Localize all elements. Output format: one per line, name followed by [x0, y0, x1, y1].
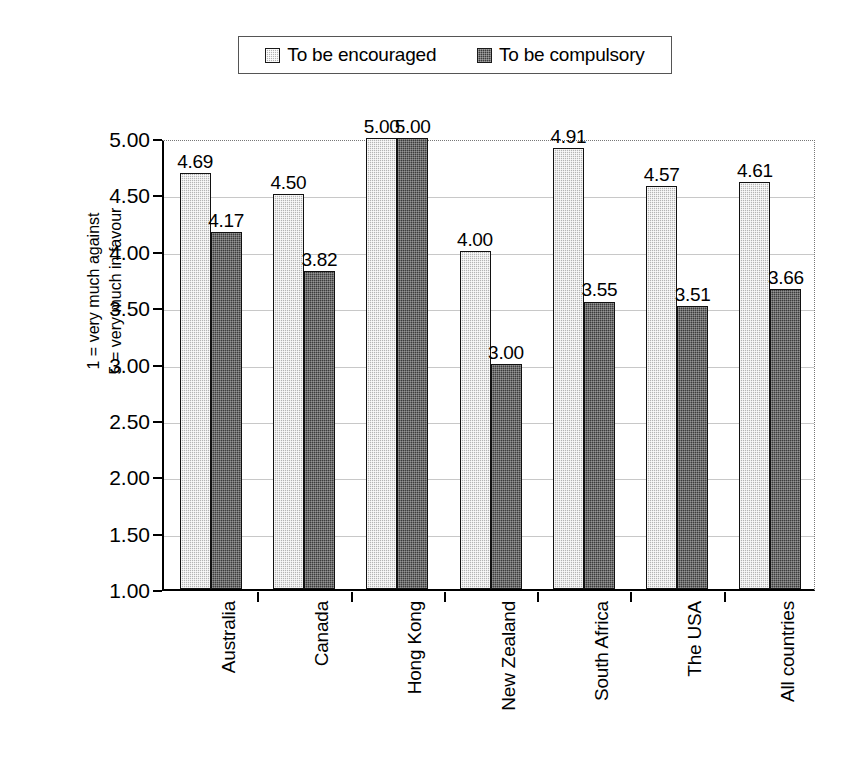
y-axis-tick-mark — [153, 252, 162, 254]
bar-compulsory — [491, 364, 522, 590]
y-axis-tick-mark — [153, 195, 162, 197]
bar-encouraged — [739, 182, 770, 589]
y-axis-tick-label: 5.00 — [88, 128, 150, 152]
y-axis-tick-mark — [153, 308, 162, 310]
x-axis-category-label: The USA — [684, 601, 706, 677]
bar-value-label: 4.61 — [737, 160, 773, 182]
y-axis-tick-labels: 5.004.504.003.503.002.502.001.501.00 — [88, 140, 150, 591]
bar-value-label: 3.55 — [581, 279, 617, 301]
plot-area: 4.694.174.503.825.005.004.003.004.913.55… — [162, 140, 815, 591]
bar-encouraged — [273, 194, 304, 589]
chart-legend: To be encouraged To be compulsory — [238, 36, 672, 74]
x-axis-category-label: New Zealand — [498, 601, 520, 711]
y-axis-tick-label: 3.00 — [88, 354, 150, 378]
y-axis-tick-mark — [153, 421, 162, 423]
bar-compulsory — [677, 306, 708, 589]
bar-encouraged — [180, 173, 211, 589]
y-axis-tick-label: 1.50 — [88, 523, 150, 547]
bar-compulsory — [584, 302, 615, 590]
legend-swatch-icon-compulsory — [477, 48, 492, 63]
y-axis-tick-label: 3.50 — [88, 297, 150, 321]
bar-value-label: 4.69 — [177, 151, 213, 173]
y-axis-tick-label: 2.50 — [88, 410, 150, 434]
bar-value-label: 4.00 — [457, 229, 493, 251]
bar-encouraged — [460, 251, 491, 589]
bar-value-label: 4.91 — [550, 126, 586, 148]
legend-label-compulsory: To be compulsory — [499, 44, 645, 66]
y-axis-tick-label: 4.50 — [88, 184, 150, 208]
bar-value-label: 4.17 — [208, 210, 244, 232]
bar-encouraged — [646, 186, 677, 589]
legend-entry-compulsory: To be compulsory — [477, 44, 645, 66]
y-axis-tick-label: 2.00 — [88, 466, 150, 490]
bar-value-label: 3.00 — [488, 342, 524, 364]
legend-label-encouraged: To be encouraged — [287, 44, 436, 66]
x-axis-category-labels: AustraliaCanadaHong KongNew ZealandSouth… — [162, 601, 815, 771]
y-axis-tick-mark — [153, 477, 162, 479]
bar-value-label: 3.82 — [302, 249, 338, 271]
x-axis-category-label: Australia — [218, 601, 240, 673]
bar-compulsory — [304, 271, 335, 589]
bar-value-label: 4.50 — [271, 172, 307, 194]
y-axis-tick-mark — [153, 139, 162, 141]
legend-swatch-icon-encouraged — [265, 48, 280, 63]
x-axis-category-label: Canada — [311, 601, 333, 666]
y-axis-tick-mark — [153, 365, 162, 367]
bar-value-label: 5.00 — [395, 116, 431, 138]
x-axis-category-label: Hong Kong — [404, 601, 426, 694]
x-axis-category-label: All countries — [777, 601, 799, 702]
bar-compulsory — [211, 232, 242, 589]
bar-encouraged — [553, 148, 584, 589]
bar-encouraged — [366, 138, 397, 589]
legend-entry-encouraged: To be encouraged — [265, 44, 436, 66]
x-axis-category-label: South Africa — [591, 601, 613, 701]
bar-value-label: 3.66 — [768, 267, 804, 289]
y-axis-tick-mark — [153, 534, 162, 536]
bar-value-label: 3.51 — [675, 284, 711, 306]
bar-compulsory — [770, 289, 801, 589]
bar-compulsory — [397, 138, 428, 589]
y-axis-tick-label: 1.00 — [88, 579, 150, 603]
y-axis-tick-mark — [153, 590, 162, 592]
bar-value-label: 4.57 — [644, 164, 680, 186]
y-axis-tick-label: 4.00 — [88, 241, 150, 265]
gridline — [164, 197, 814, 198]
